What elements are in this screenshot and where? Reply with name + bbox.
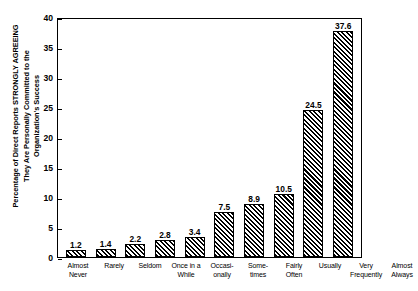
bar-value-label: 7.5: [219, 203, 231, 212]
y-tick-label: 20: [33, 134, 53, 143]
bar-value-label: 8.9: [248, 195, 260, 204]
bar-slot: 10.5: [269, 19, 299, 257]
bar-slot: 24.5: [299, 19, 329, 257]
x-label-slot: Almost Never: [60, 261, 96, 291]
x-label-slot: Usually: [312, 261, 348, 291]
y-tick-mark: [58, 229, 62, 230]
bar-slot: 1.2: [61, 19, 91, 257]
y-tick-label: 30: [33, 74, 53, 83]
bar: 2.8: [155, 240, 175, 257]
bar: 3.4: [185, 237, 205, 257]
y-tick-mark: [58, 109, 62, 110]
bar-value-label: 2.8: [159, 231, 171, 240]
x-label-slot: Fairly Often: [276, 261, 312, 291]
bar-value-label: 1.2: [70, 241, 82, 250]
bar: 24.5: [303, 110, 323, 257]
x-label-slot: Almost Always: [384, 261, 418, 291]
x-tick-label: Fairly Often: [276, 261, 312, 291]
y-tick-label: 40: [33, 14, 53, 23]
y-tick-mark: [58, 199, 62, 200]
bar-slot: 7.5: [210, 19, 240, 257]
bar: 1.4: [96, 249, 116, 257]
bar: 2.2: [125, 244, 145, 257]
y-tick-label: 5: [33, 224, 53, 233]
x-tick-label: Usually: [312, 261, 348, 291]
bar-slot: 3.4: [180, 19, 210, 257]
y-tick-mark: [58, 49, 62, 50]
y-axis-tick-labels: 0510152025303540: [31, 0, 53, 291]
x-tick-label: Some- times: [240, 261, 276, 291]
y-tick-label: 35: [33, 44, 53, 53]
bar-slot: 8.9: [239, 19, 269, 257]
bar-value-label: 24.5: [305, 101, 321, 110]
bar-slot: 37.6: [328, 19, 358, 257]
bar-slot: 2.8: [150, 19, 180, 257]
y-tick-mark: [58, 19, 62, 20]
bar-value-label: 10.5: [276, 185, 292, 194]
x-tick-label: Once in a While: [168, 261, 204, 291]
bar-value-label: 3.4: [189, 228, 201, 237]
x-label-slot: Some- times: [240, 261, 276, 291]
x-tick-label: Seldom: [132, 261, 168, 291]
y-tick-mark: [58, 169, 62, 170]
y-tick-mark: [58, 139, 62, 140]
y-tick-label: 25: [33, 104, 53, 113]
x-axis-tick-labels: Almost NeverRarelySeldomOnce in a WhileO…: [57, 261, 362, 291]
x-label-slot: Once in a While: [168, 261, 204, 291]
bar: 1.2: [66, 250, 86, 257]
bar: 37.6: [333, 31, 353, 257]
x-tick-label: Almost Never: [60, 261, 96, 291]
x-label-slot: Very Frequently: [348, 261, 384, 291]
y-tick-label: 10: [33, 194, 53, 203]
x-tick-label: Occasi- onally: [204, 261, 240, 291]
bar: 7.5: [214, 212, 234, 257]
bar-value-label: 1.4: [100, 240, 112, 249]
x-tick-label: Very Frequently: [348, 261, 384, 291]
bar-value-label: 37.6: [335, 22, 351, 31]
plot-area: 1.21.42.22.83.47.58.910.524.537.6: [57, 18, 362, 258]
x-label-slot: Seldom: [132, 261, 168, 291]
bar-slot: 2.2: [120, 19, 150, 257]
bar-value-label: 2.2: [129, 235, 141, 244]
bar: 10.5: [274, 194, 294, 257]
bar-slot: 1.4: [91, 19, 121, 257]
bar-series: 1.21.42.22.83.47.58.910.524.537.6: [58, 19, 361, 257]
x-label-slot: Rarely: [96, 261, 132, 291]
y-tick-label: 0: [33, 254, 53, 263]
x-tick-label: Rarely: [96, 261, 132, 291]
y-tick-label: 15: [33, 164, 53, 173]
bar: 8.9: [244, 204, 264, 257]
x-label-slot: Occasi- onally: [204, 261, 240, 291]
y-tick-mark: [58, 79, 62, 80]
y-tick-mark: [58, 259, 62, 260]
x-tick-label: Almost Always: [384, 261, 418, 291]
